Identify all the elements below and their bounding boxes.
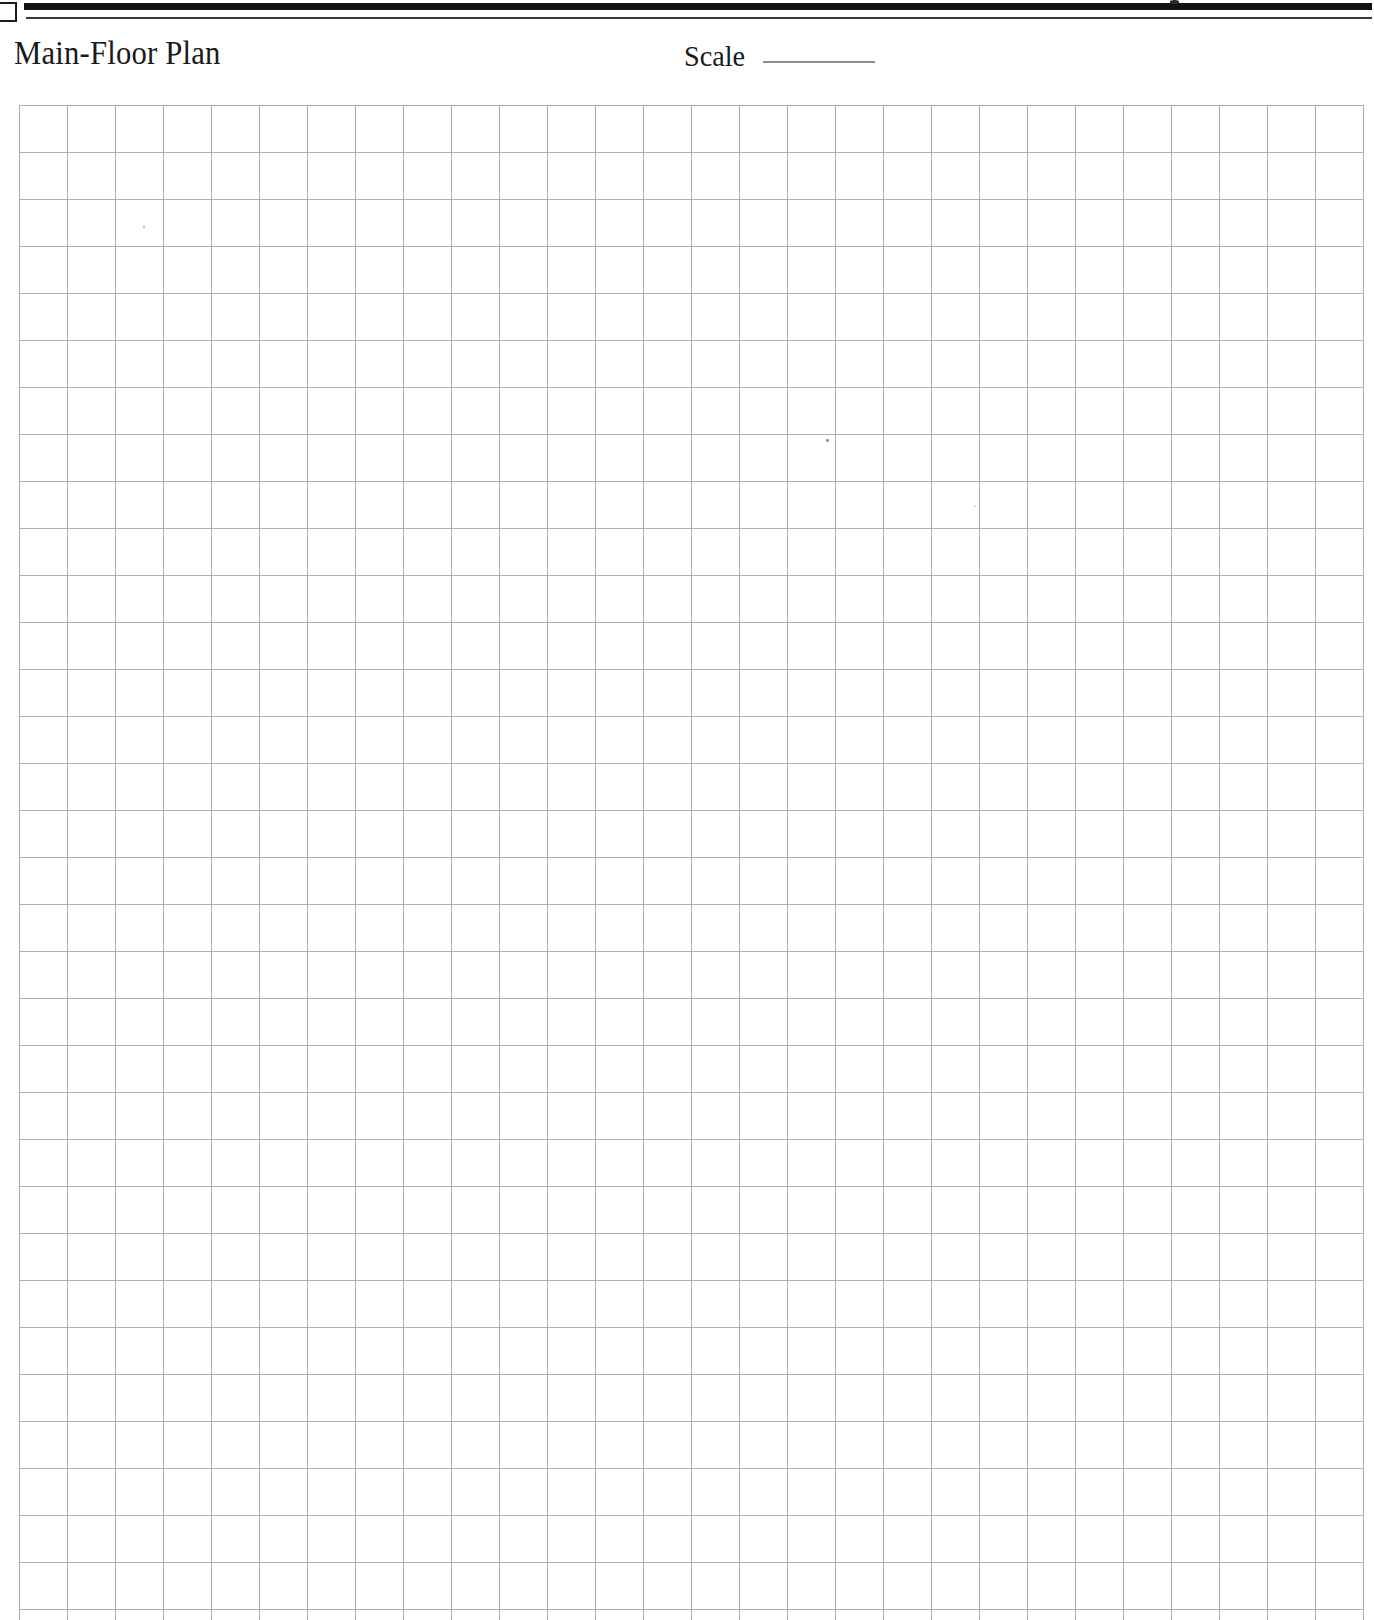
scan-speck-icon [143, 225, 145, 229]
header-rule-thick [24, 3, 1372, 10]
page-title: Main-Floor Plan [14, 33, 221, 73]
worksheet-page: Main-Floor Plan Scale [0, 0, 1374, 1620]
scale-input-blank[interactable] [763, 61, 875, 63]
header-rule-thin [26, 17, 1372, 19]
grid-edge-right [1363, 105, 1364, 1620]
scale-label: Scale [684, 38, 745, 74]
scale-field[interactable]: Scale [684, 38, 875, 74]
graph-paper-grid[interactable] [19, 105, 1364, 1620]
scan-speck-icon [974, 505, 976, 507]
grid-lines [19, 105, 1364, 1620]
scan-speck-icon [1170, 0, 1179, 4]
corner-crop-mark-icon [0, 2, 17, 22]
grid-edge-top [19, 105, 1364, 106]
scan-speck-icon [826, 439, 829, 442]
